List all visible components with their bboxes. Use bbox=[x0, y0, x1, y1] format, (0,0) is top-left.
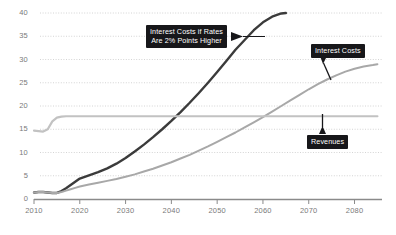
y-axis-tick-label: 15 bbox=[6, 125, 28, 133]
x-axis-tick-label: 2020 bbox=[63, 207, 97, 215]
y-axis-tick-label: 40 bbox=[6, 9, 28, 17]
annotation-revenues: Revenues bbox=[307, 135, 348, 149]
x-axis-tick-label: 2040 bbox=[154, 207, 188, 215]
annotation-interest-costs: Interest Costs bbox=[311, 44, 365, 58]
series-line-interest-costs bbox=[34, 64, 377, 193]
y-axis-tick-label: 35 bbox=[6, 32, 28, 40]
leader-interest-costs bbox=[324, 63, 332, 80]
x-axis-tick-label: 2010 bbox=[17, 207, 51, 215]
x-axis-tick-label: 2060 bbox=[246, 207, 280, 215]
y-axis-tick-label: 25 bbox=[6, 79, 28, 87]
y-axis-tick-label: 30 bbox=[6, 56, 28, 64]
y-axis-tick-label: 5 bbox=[6, 172, 28, 180]
pointer-revenues bbox=[319, 126, 326, 134]
y-axis-tick-label: 10 bbox=[6, 149, 28, 157]
x-axis-tick-label: 2030 bbox=[109, 207, 143, 215]
y-axis-tick-label: 0 bbox=[6, 195, 28, 203]
series-line-revenues bbox=[34, 116, 377, 131]
annotation-rates-higher: Interest Costs if Rates Are 2% Points Hi… bbox=[146, 25, 227, 48]
x-axis-tick-label: 2080 bbox=[338, 207, 372, 215]
line-chart: 0510152025303540 20102020203020402050206… bbox=[0, 0, 396, 235]
x-axis-tick-label: 2050 bbox=[200, 207, 234, 215]
y-axis-tick-label: 20 bbox=[6, 102, 28, 110]
pointer-rates-higher bbox=[231, 32, 243, 41]
x-axis-tick-label: 2070 bbox=[292, 207, 326, 215]
